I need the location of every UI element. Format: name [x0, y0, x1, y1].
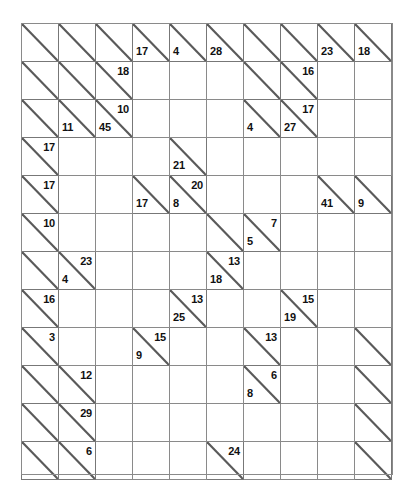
entry-cell[interactable]: [133, 252, 170, 290]
entry-cell[interactable]: [133, 62, 170, 100]
entry-cell[interactable]: [59, 290, 96, 328]
entry-cell[interactable]: [133, 290, 170, 328]
kakuro-grid[interactable]: 1742823181816111045417271721171720841910…: [21, 23, 392, 480]
down-clue-number: 4: [173, 46, 179, 57]
entry-cell[interactable]: [281, 442, 318, 480]
diagonal-slash-icon: [22, 100, 58, 137]
entry-cell[interactable]: [318, 328, 355, 366]
entry-cell[interactable]: [244, 290, 281, 328]
entry-cell[interactable]: [133, 404, 170, 442]
entry-cell[interactable]: [96, 214, 133, 252]
entry-cell[interactable]: [96, 328, 133, 366]
diagonal-slash-icon: [59, 62, 95, 99]
entry-cell[interactable]: [355, 290, 392, 328]
entry-cell[interactable]: [244, 442, 281, 480]
across-clue-number: 12: [80, 370, 92, 381]
entry-cell[interactable]: [96, 290, 133, 328]
entry-cell[interactable]: [281, 176, 318, 214]
entry-cell[interactable]: [318, 442, 355, 480]
entry-cell[interactable]: [355, 214, 392, 252]
entry-cell[interactable]: [281, 328, 318, 366]
diagonal-slash-icon: [22, 404, 58, 441]
clue-cell: 16: [281, 62, 318, 100]
entry-cell[interactable]: [281, 404, 318, 442]
entry-cell[interactable]: [133, 366, 170, 404]
diagonal-slash-icon: [244, 62, 280, 99]
entry-cell[interactable]: [355, 252, 392, 290]
entry-cell[interactable]: [318, 138, 355, 176]
entry-cell[interactable]: [281, 138, 318, 176]
entry-cell[interactable]: [59, 214, 96, 252]
entry-cell[interactable]: [207, 366, 244, 404]
entry-cell[interactable]: [170, 442, 207, 480]
down-clue-number: 4: [62, 274, 68, 285]
kakuro-row: 1721: [22, 138, 392, 176]
clue-cell: 4: [244, 100, 281, 138]
diagonal-slash-icon: [22, 366, 58, 403]
entry-cell[interactable]: [170, 214, 207, 252]
clue-cell: 41: [318, 176, 355, 214]
entry-cell[interactable]: [318, 404, 355, 442]
entry-cell[interactable]: [59, 138, 96, 176]
entry-cell[interactable]: [207, 100, 244, 138]
entry-cell[interactable]: [207, 62, 244, 100]
kakuro-grid-body: 1742823181816111045417271721171720841910…: [22, 24, 392, 480]
entry-cell[interactable]: [96, 176, 133, 214]
entry-cell[interactable]: [355, 62, 392, 100]
diagonal-slash-icon: [22, 24, 58, 61]
entry-cell[interactable]: [170, 252, 207, 290]
entry-cell[interactable]: [244, 138, 281, 176]
entry-cell[interactable]: [207, 176, 244, 214]
entry-cell[interactable]: [207, 404, 244, 442]
entry-cell[interactable]: [133, 138, 170, 176]
entry-cell[interactable]: [318, 100, 355, 138]
entry-cell[interactable]: [355, 138, 392, 176]
entry-cell[interactable]: [170, 62, 207, 100]
clue-cell: 9: [355, 176, 392, 214]
entry-cell[interactable]: [281, 214, 318, 252]
entry-cell[interactable]: [207, 328, 244, 366]
entry-cell[interactable]: [170, 328, 207, 366]
entry-cell[interactable]: [318, 214, 355, 252]
clue-cell: 10: [22, 214, 59, 252]
clue-cell: 11: [59, 100, 96, 138]
entry-cell[interactable]: [96, 442, 133, 480]
entry-cell[interactable]: [244, 252, 281, 290]
entry-cell[interactable]: [281, 366, 318, 404]
entry-cell[interactable]: [133, 100, 170, 138]
entry-cell[interactable]: [133, 442, 170, 480]
entry-cell[interactable]: [133, 214, 170, 252]
clue-cell: [22, 404, 59, 442]
down-clue-number: 9: [136, 350, 142, 361]
entry-cell[interactable]: [59, 328, 96, 366]
entry-cell[interactable]: [170, 404, 207, 442]
diagonal-slash-icon: [244, 24, 280, 61]
clue-cell: 16: [22, 290, 59, 328]
entry-cell[interactable]: [318, 62, 355, 100]
entry-cell[interactable]: [318, 290, 355, 328]
entry-cell[interactable]: [318, 366, 355, 404]
across-clue-number: 3: [49, 332, 55, 343]
clue-cell: [355, 442, 392, 480]
entry-cell[interactable]: [244, 176, 281, 214]
entry-cell[interactable]: [355, 100, 392, 138]
entry-cell[interactable]: [96, 138, 133, 176]
clue-cell: 1727: [281, 100, 318, 138]
entry-cell[interactable]: [59, 176, 96, 214]
clue-cell: 75: [244, 214, 281, 252]
diagonal-slash-icon: [22, 62, 58, 99]
clue-cell: [22, 442, 59, 480]
entry-cell[interactable]: [96, 404, 133, 442]
entry-cell[interactable]: [96, 366, 133, 404]
entry-cell[interactable]: [281, 252, 318, 290]
entry-cell[interactable]: [318, 252, 355, 290]
clue-cell: 208: [170, 176, 207, 214]
clue-cell: 234: [59, 252, 96, 290]
entry-cell[interactable]: [170, 100, 207, 138]
entry-cell[interactable]: [170, 366, 207, 404]
entry-cell[interactable]: [207, 290, 244, 328]
entry-cell[interactable]: [207, 138, 244, 176]
entry-cell[interactable]: [96, 252, 133, 290]
down-clue-number: 18: [358, 46, 370, 57]
entry-cell[interactable]: [244, 404, 281, 442]
